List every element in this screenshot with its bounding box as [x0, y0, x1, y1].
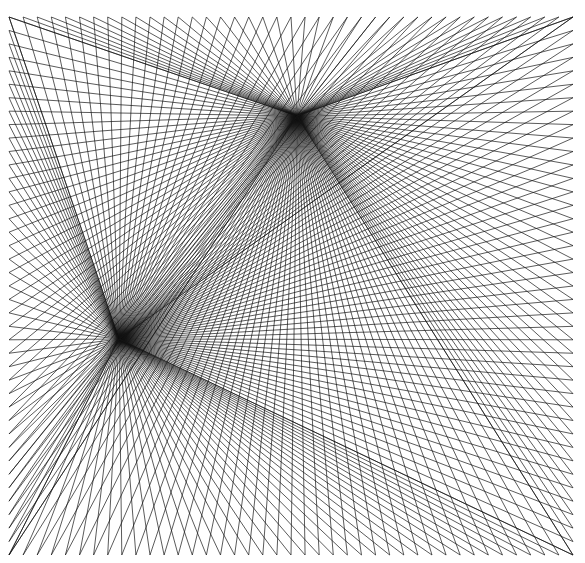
string-art-figure: [0, 0, 585, 563]
